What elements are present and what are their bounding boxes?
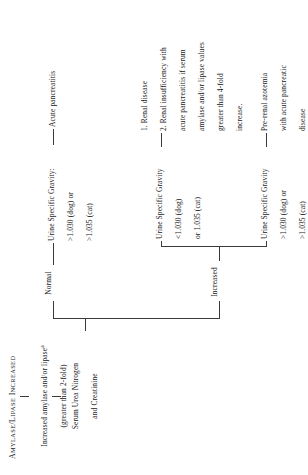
connector-split-bar [53, 318, 219, 319]
connector-normal-to-usg [53, 243, 54, 265]
connector-usg-to-outcome [53, 129, 54, 145]
node-second-test: Serum Urea Nitrogen and Creatinine [62, 335, 100, 457]
node-increased-usg-high: Urine Specific Gravity >1.030 (dog) or >… [251, 147, 286, 239]
node-normal-usg-line1: Urine Specific Gravity: [47, 168, 56, 241]
connector-usglow-stem [161, 241, 162, 247]
node-increased-usg-low-line1: Urine Specific Gravity [155, 168, 164, 239]
connector-increased-branch [219, 301, 220, 319]
connector-second-stem [85, 319, 86, 331]
connector-normal-branch [53, 301, 54, 319]
node-branch-increased: Increased [210, 261, 219, 303]
node-root-test-line1: Increased amylase and/or lipase [40, 348, 49, 447]
figure-title: AMYLASE/LIPASE INCREASED [8, 356, 17, 459]
connector-split-bar-2 [161, 246, 266, 247]
node-normal-usg-line3: >1.035 (cat) [85, 203, 94, 241]
node-normal-usg: Urine Specific Gravity: >1.030 (dog) or … [38, 145, 95, 241]
connector-increased-to-split2 [219, 247, 220, 261]
node-renal-outcome-line1: 1. Renal disease [140, 81, 149, 131]
node-increased-usg-high-line2: >1.030 (dog) or [279, 190, 286, 239]
node-renal-outcome-list: 1. Renal disease 2. Renal insufficiency … [131, 7, 245, 131]
node-renal-outcome-line5: greater than 4-fold [216, 73, 225, 131]
node-increased-usg-high-line1: Urine Specific Gravity [260, 168, 269, 239]
node-increased-usg-low-line2: <1.030 (dog) [174, 199, 183, 239]
node-renal-outcome-line4: amylase and/or lipase values [197, 42, 206, 131]
node-second-test-line1: Serum Urea Nitrogen [71, 363, 80, 429]
node-increased-usg-low: Urine Specific Gravity <1.030 (dog) or 1… [146, 147, 203, 239]
connector-usghigh-stem [266, 241, 267, 247]
node-prerenal-line1: Pre-renal azotemia [260, 73, 269, 131]
flowchart-canvas: AMYLASE/LIPASE INCREASED Increased amyla… [0, 0, 286, 475]
node-renal-outcome-line2: 2. Renal insufficiency with [159, 47, 168, 131]
connector-usghigh-to-prerenal [266, 133, 267, 147]
node-renal-outcome-line3: acute pancreatitis if serum [178, 49, 187, 131]
node-branch-normal: Normal [44, 265, 53, 301]
connector-title-to-root [20, 396, 29, 397]
node-prerenal-line2: with acute pancreatic [279, 65, 286, 131]
node-root-test-superscript: a [39, 345, 45, 347]
node-increased-usg-low-line3: or 1.035 (cat) [193, 197, 202, 239]
figure-title-text: AMYLASE/LIPASE INCREASED [8, 356, 17, 459]
node-prerenal-azotemia: Pre-renal azotemia with acute pancreatic… [251, 21, 286, 131]
node-renal-outcome-line6: increase. [235, 104, 244, 131]
node-second-test-line2: and Creatinine [90, 373, 99, 418]
node-acute-pancreatitis: Acute pancreatitis [48, 37, 57, 127]
node-normal-usg-line2: >1.030 (dog) or [66, 192, 75, 241]
connector-root-to-second [52, 396, 61, 397]
connector-usglow-to-list [161, 133, 162, 147]
